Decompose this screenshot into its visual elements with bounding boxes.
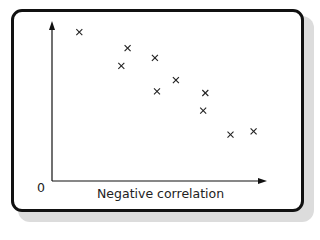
x-marker (152, 55, 158, 61)
x-marker (251, 128, 257, 134)
origin-label: 0 (37, 180, 45, 195)
x-marker (200, 108, 206, 114)
y-axis (49, 21, 55, 181)
x-marker (202, 90, 208, 96)
x-marker (173, 77, 179, 83)
x-marker (154, 88, 160, 94)
x-marker (118, 63, 124, 69)
x-marker (76, 29, 82, 35)
x-marker (125, 45, 131, 51)
x-axis-label: Negative correlation (97, 186, 224, 201)
x-marker (228, 132, 234, 138)
data-markers (76, 29, 256, 137)
x-axis (52, 178, 267, 184)
